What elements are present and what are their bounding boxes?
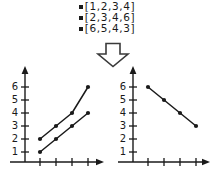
y-tick-label: 3 [12,120,18,131]
data-point [194,124,198,128]
data-point [70,124,74,128]
y-tick-label: 5 [12,94,18,105]
data-point [162,98,166,102]
x-axis-arrowhead [202,159,210,166]
y-axis-arrowhead [22,66,29,74]
y-tick-group: 1 2 3 4 5 6 [12,81,29,157]
series-lower [38,111,90,154]
data-point [70,111,74,115]
x-axis-arrowhead [96,159,104,166]
y-tick-label: 6 [12,81,18,92]
series-descending [146,85,198,128]
list-item: [6,5,4,3] [79,23,135,34]
value-list: [1,2,3,4] [2,3,4,6] [6,5,4,3] [0,1,214,34]
y-axis-arrowhead [130,66,137,74]
data-point [86,85,90,89]
data-point [54,137,58,141]
data-point [178,111,182,115]
list-item-label: [6,5,4,3] [85,23,135,34]
chart-output-line: 1 2 3 4 5 6 [108,62,214,184]
series-descending-line [148,87,196,126]
data-point [38,150,42,154]
bullet-icon [79,5,83,9]
data-point [54,124,58,128]
y-tick-label: 2 [12,133,18,144]
y-tick-label: 1 [120,146,126,157]
y-tick-group: 1 2 3 4 5 6 [120,81,137,157]
y-tick-label: 5 [120,94,126,105]
y-tick-label: 1 [12,146,18,157]
data-point [38,137,42,141]
bullet-icon [79,27,83,31]
y-tick-label: 4 [120,107,126,118]
series-upper-line [40,87,88,139]
y-tick-label: 3 [120,120,126,131]
data-point [146,85,150,89]
data-point [86,111,90,115]
y-tick-label: 4 [12,107,18,118]
y-tick-label: 6 [120,81,126,92]
bullet-icon [79,16,83,20]
y-tick-label: 2 [120,133,126,144]
chart-input-lines: 1 2 3 4 5 6 [0,62,108,184]
